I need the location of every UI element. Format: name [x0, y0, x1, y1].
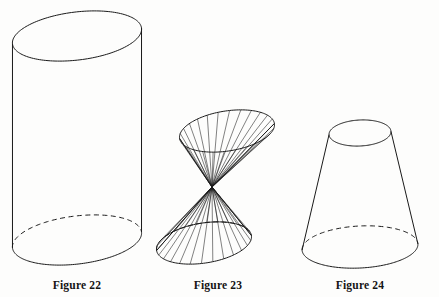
cone-silhouette-edge	[180, 139, 212, 187]
cone-lower-ruling	[212, 187, 234, 255]
figure-23-caption: Figure 23	[194, 279, 243, 291]
cone-silhouette-edge	[212, 187, 251, 235]
cone-upper-ruling	[212, 110, 251, 187]
cone-lower-ruling	[212, 187, 213, 262]
figure-24-caption: Figure 24	[336, 279, 385, 291]
figure-plate: Figure 22 Figure 23 Figure 24	[0, 0, 439, 297]
cone-lower-ruling	[212, 187, 237, 224]
cone-upper-ruling	[184, 128, 212, 187]
cone-upper-ruling	[212, 138, 265, 187]
cone-lower-ruling	[212, 187, 247, 246]
frustum-top-ellipse	[329, 120, 391, 146]
frustum-left-edge	[302, 135, 329, 250]
cone-silhouette-edge	[157, 187, 212, 251]
figure-24-frustum-drawing	[302, 120, 418, 268]
figure-23-double-cone-drawing	[156, 110, 274, 264]
frustum-bottom-visible-arc	[302, 244, 418, 268]
cone-silhouette-edge	[212, 123, 274, 187]
frustum-bottom-hidden-arc	[302, 226, 418, 250]
cone-upper-ruling	[212, 110, 241, 187]
cylinder-bottom-visible-arc	[12, 232, 141, 265]
cylinder-bottom-hidden-arc	[12, 215, 141, 248]
figure-22-cylinder-drawing	[12, 11, 141, 265]
cone-lower-ruling	[180, 187, 212, 264]
cone-lower-ruling	[184, 187, 212, 227]
cone-lower-ruling	[212, 187, 251, 240]
geometric-figures-illustration	[0, 0, 439, 297]
figure-22-caption: Figure 22	[53, 279, 102, 291]
cone-upper-ruling	[212, 112, 218, 187]
cone-upper-ruling	[212, 119, 272, 187]
cylinder-top-ellipse	[12, 11, 141, 61]
cone-top-rim	[179, 110, 274, 152]
frustum-right-edge	[391, 131, 418, 244]
